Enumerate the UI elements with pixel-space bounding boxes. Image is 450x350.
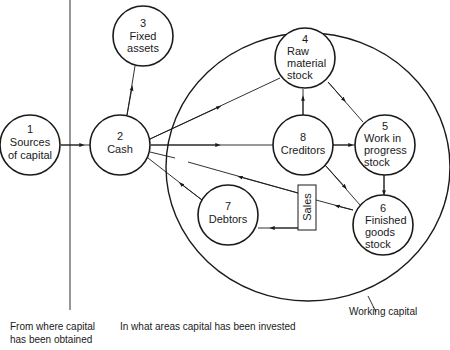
node-label: Cash bbox=[107, 143, 133, 155]
caption-left-line1: From where capital bbox=[10, 321, 95, 332]
node-label: stock bbox=[364, 156, 390, 168]
node-label: Work in bbox=[364, 132, 401, 144]
node-creditors: 8 Creditors bbox=[273, 115, 333, 175]
edge-cash-stub bbox=[150, 152, 175, 158]
caption-right: In what areas capital has been invested bbox=[120, 321, 296, 332]
node-number: 7 bbox=[225, 200, 231, 212]
node-number: 3 bbox=[140, 17, 146, 29]
node-number: 5 bbox=[382, 120, 388, 132]
node-fixed-assets: 3 Fixed assets bbox=[113, 6, 173, 66]
node-label: stock bbox=[365, 238, 391, 250]
node-number: 6 bbox=[380, 202, 386, 214]
sales-box: Sales bbox=[298, 185, 316, 230]
node-label: Sources bbox=[10, 136, 51, 148]
node-number: 4 bbox=[302, 33, 308, 45]
node-label: Raw bbox=[287, 45, 309, 57]
capital-flow-diagram: 1 Sources of capital 2 Cash 3 Fixed asse… bbox=[0, 0, 450, 350]
node-label: goods bbox=[365, 226, 395, 238]
node-debtors: 7 Debtors bbox=[198, 185, 258, 245]
node-number: 8 bbox=[300, 131, 306, 143]
node-label: Fixed bbox=[130, 30, 157, 42]
node-cash: 2 Cash bbox=[90, 115, 150, 175]
node-work-in-progress-stock: 5 Work in progress stock bbox=[355, 115, 415, 175]
node-label: Debtors bbox=[209, 213, 248, 225]
node-number: 1 bbox=[27, 123, 33, 135]
node-label: Creditors bbox=[281, 144, 326, 156]
node-raw-material-stock: 4 Raw material stock bbox=[275, 28, 335, 88]
caption-left-line2: has been obtained bbox=[10, 334, 92, 345]
node-label: Finished bbox=[365, 214, 407, 226]
sales-label: Sales bbox=[301, 193, 313, 221]
node-sources-of-capital: 1 Sources of capital bbox=[0, 115, 60, 175]
node-label: progress bbox=[364, 144, 407, 156]
node-number: 2 bbox=[117, 130, 123, 142]
node-finished-goods-stock: 6 Finished goods stock bbox=[353, 195, 413, 255]
node-label: material bbox=[287, 57, 326, 69]
node-label: assets bbox=[127, 42, 159, 54]
node-label: of capital bbox=[8, 149, 52, 161]
working-capital-label: Working capital bbox=[349, 306, 417, 317]
node-label: stock bbox=[287, 69, 313, 81]
